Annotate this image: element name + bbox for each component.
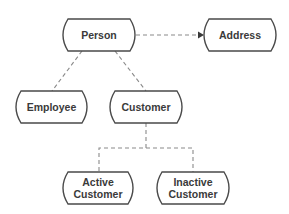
nodes-layer: PersonAddressEmployeeCustomerActiveCusto…: [16, 19, 276, 204]
node-label: Customer: [168, 188, 217, 200]
node-label: Active: [82, 176, 114, 188]
edge-customer-inactive: [146, 148, 193, 172]
node-inactive-customer[interactable]: InactiveCustomer: [157, 172, 229, 204]
edge-person-customer: [115, 51, 146, 91]
class-diagram: PersonAddressEmployeeCustomerActiveCusto…: [0, 0, 289, 214]
node-employee[interactable]: Employee: [16, 91, 87, 123]
edge-customer-active: [99, 123, 146, 172]
node-customer[interactable]: Customer: [110, 91, 182, 123]
node-person[interactable]: Person: [63, 19, 135, 51]
node-active-customer[interactable]: ActiveCustomer: [63, 172, 133, 204]
arrowhead-icon: [198, 32, 204, 39]
node-label: Customer: [121, 101, 170, 113]
edge-person-employee: [52, 51, 82, 91]
node-label: Employee: [27, 101, 77, 113]
node-label: Person: [81, 29, 117, 41]
node-label: Address: [219, 29, 261, 41]
node-label: Inactive: [173, 176, 212, 188]
node-label: Customer: [73, 188, 122, 200]
node-address[interactable]: Address: [204, 19, 276, 51]
